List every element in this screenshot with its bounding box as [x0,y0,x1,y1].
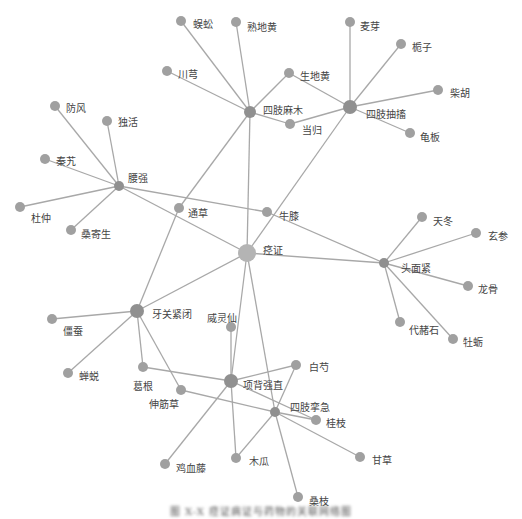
node-label-duzhong: 杜仲 [31,212,51,224]
node-duzhong [15,202,25,212]
node-label-xiangbeiqiangzhi: 项背强直 [243,379,283,391]
node-label-tongcao: 通草 [188,208,208,219]
edge-xuanshen-toumianjin [384,233,476,263]
node-fangfeng [50,101,60,111]
node-toumianjin [379,258,389,268]
node-jingzheng [238,244,256,262]
edge-shudihuang-sizhimamu [236,22,250,112]
node-label-shenjincao: 伸筋草 [149,398,179,410]
node-shudihuang [231,17,241,27]
node-label-qinjiao: 秦艽 [56,155,76,167]
node-label-yaoqiang: 腰强 [128,173,148,184]
node-guiban [405,128,415,138]
node-yaoqiang [114,181,124,191]
node-muli [448,334,458,344]
node-label-wugong: 蜈蚣 [193,18,213,30]
edge-chaihu-sizhichouchu [350,90,438,107]
node-gancao [355,452,365,462]
node-danggui [285,119,295,129]
node-label-sizhiluanji: 四肢挛急 [290,401,330,413]
node-longgu [463,281,473,291]
node-label-gegen: 葛根 [133,380,153,392]
node-mugua [231,453,241,463]
node-tongcao [174,203,184,213]
node-label-duhuo: 独活 [118,116,138,128]
node-label-shengdihuang: 生地黄 [300,70,330,82]
edge-zhizi-sizhichouchu [350,44,401,107]
edge-tiandong-toumianjin [384,217,422,263]
node-label-sizhichouchu: 四肢抽搐 [366,108,406,120]
node-label-fangfeng: 防风 [66,102,86,114]
edge-duhuo-yaoqiang [107,121,119,186]
node-niuxi [262,207,272,217]
node-label-sizhimamu: 四肢麻木 [263,104,303,116]
node-label-jixueteng: 鸡血藤 [176,462,206,474]
node-chuanxiong [162,66,172,76]
edge-duzhong-yaoqiang [20,186,119,207]
node-sangjisheng [66,225,76,235]
edge-sangjisheng-yaoqiang [71,186,119,230]
node-label-chuanxiong: 川芎 [178,68,198,80]
node-label-baishao: 白芍 [309,361,329,373]
node-maiya [345,17,355,27]
node-label-sangjisheng: 桑寄生 [81,228,111,240]
edge-sangzhi-sizhiluanji [275,412,298,497]
edge-shenjincao-sizhiluanji [181,390,275,412]
node-chaihu [433,85,443,95]
node-shenjincao [176,385,186,395]
edge-sizhichouchu-jingzheng [247,107,350,253]
node-label-guiban: 龟板 [420,131,440,143]
edge-sizhimamu-jingzheng [247,112,250,253]
node-label-chaihu: 柴胡 [450,87,470,99]
node-zhizi [396,39,406,49]
node-shengdihuang [284,68,294,78]
node-label-chantui: 蝉蜕 [79,370,99,382]
node-tiandong [417,212,427,222]
node-label-toumianjin: 头面紧 [401,263,431,274]
node-qinjiao [40,154,50,164]
edge-baishao-xiangbeiqiangzhi [231,365,296,381]
edge-jiangcan-yaguanjinbi [52,311,137,319]
edge-jingzheng-yaguanjinbi [137,253,247,311]
node-label-yaguanjinbi: 牙关紧闭 [152,308,192,320]
node-label-guizhi: 桂枝 [326,417,346,429]
node-sizhimamu [244,106,256,118]
network-graph: 痉证四肢麻木四肢抽搐腰强头面紧牙关紧闭项背强直四肢挛急蜈蚣熟地黄川芎生地黄当归麦… [0,0,522,519]
node-label-danggui: 当归 [302,124,322,136]
node-label-jiangcan: 僵蚕 [63,326,83,337]
edge-guizhi-sizhiluanji [275,412,316,420]
node-layer [15,16,481,502]
node-xuanshen [471,228,481,238]
node-sizhichouchu [343,100,357,114]
node-sangzhi [293,492,303,502]
node-gegen [138,362,148,372]
node-daizheshi [395,317,405,327]
node-jiangcan [47,314,57,324]
node-label-zhizi: 栀子 [412,41,432,53]
node-label-weilingxian: 威灵仙 [207,312,237,324]
edge-tongcao-yaguanjinbi [137,208,179,311]
node-duhuo [102,116,112,126]
edge-mugua-sizhiluanji [236,412,275,458]
node-sizhiluanji [270,407,280,417]
edge-shenjincao-yaguanjinbi [137,311,181,390]
node-wugong [176,16,186,26]
node-label-maiya: 麦芽 [360,20,380,32]
node-yaguanjinbi [130,304,144,318]
node-chantui [63,368,73,378]
node-label-jingzheng: 痉证 [263,244,283,256]
node-guizhi [311,415,321,425]
node-jixueteng [160,459,170,469]
node-xiangbeiqiangzhi [224,374,238,388]
node-label-muli: 牡蛎 [463,336,483,348]
edge-wugong-sizhimamu [181,21,250,112]
node-label-longgu: 龙骨 [478,283,498,295]
edge-sizhimamu-tongcao [179,112,250,208]
node-label-shudihuang: 熟地黄 [247,21,277,33]
figure-caption: 图 X-X 痉证病证与药物的关联网络图 [0,503,522,518]
node-label-mugua: 木瓜 [249,456,269,467]
node-label-tiandong: 天冬 [433,215,453,227]
node-label-niuxi: 牛膝 [279,210,299,222]
node-label-xuanshen: 玄参 [488,230,508,242]
node-baishao [291,360,301,370]
